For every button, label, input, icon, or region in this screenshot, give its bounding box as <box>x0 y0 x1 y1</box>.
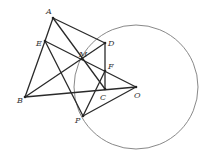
label-p: P <box>74 116 81 125</box>
segment-ae <box>45 18 53 41</box>
label-a: A <box>45 7 52 16</box>
label-f: F <box>107 62 114 71</box>
label-e: E <box>35 39 42 48</box>
point-d <box>104 42 107 45</box>
geometry-figure: AEDMFBCOP <box>0 0 209 154</box>
label-d: D <box>107 39 115 48</box>
point-a <box>52 17 55 20</box>
segments <box>25 18 136 116</box>
segment-eo <box>45 41 136 87</box>
label-b: B <box>16 96 23 105</box>
point-e <box>44 40 47 43</box>
point-f <box>104 70 107 73</box>
point-p <box>82 115 85 118</box>
label-m: M <box>78 50 88 59</box>
point-c <box>104 88 107 91</box>
label-o: O <box>134 91 141 100</box>
segment-ad <box>53 18 105 43</box>
point-b <box>24 96 27 99</box>
label-c: C <box>100 93 106 102</box>
segment-eb <box>25 41 45 97</box>
point-o <box>135 86 138 89</box>
